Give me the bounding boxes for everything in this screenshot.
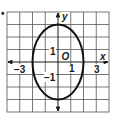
origin-label: O [62,51,70,62]
y-axis-arrow-down-icon [56,107,59,111]
tick-label-y-neg1: −1 [44,72,56,83]
y-axis-label: y [61,11,68,22]
x-axis-arrow-left-icon [8,60,12,63]
x-axis-label: x [99,51,106,62]
ellipse-graph: • y x O 1 −1 −3 1 3 [0,0,113,115]
item-bullet: • [1,8,5,19]
tick-label-x-neg3: −3 [14,64,26,75]
axes [8,13,108,111]
tick-label-x-1: 1 [69,63,75,74]
y-axis-arrow-icon [56,13,59,17]
tick-label-y-1: 1 [50,46,56,57]
tick-label-x-3: 3 [94,64,100,75]
